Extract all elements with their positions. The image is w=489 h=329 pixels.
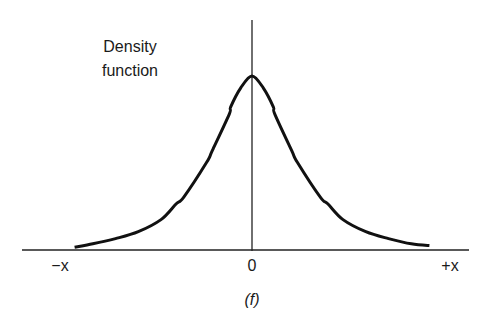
y-axis-label-line2: function — [102, 62, 158, 79]
y-axis-label-line1: Density — [103, 38, 156, 55]
density-chart: Density function −x 0 +x (f) — [0, 0, 489, 329]
x-tick-label-neg: −x — [51, 257, 68, 274]
figure-caption: (f) — [244, 291, 259, 308]
x-tick-label-zero: 0 — [248, 257, 257, 274]
x-tick-label-pos: +x — [441, 257, 458, 274]
